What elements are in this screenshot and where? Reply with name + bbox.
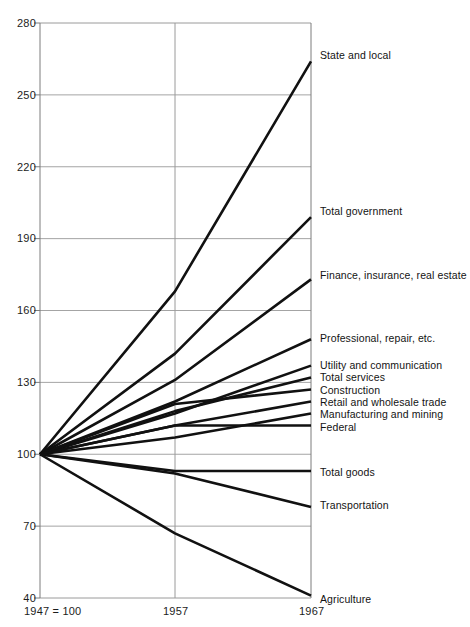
series-label-finance-insurance-real-estate: Finance, insurance, real estate [320,270,467,281]
series-label-manufacturing-and-mining: Manufacturing and mining [320,409,443,420]
series-label-construction: Construction [320,385,380,396]
x-tick-label-1967: 1967 [299,606,324,617]
y-tick-label-280: 280 [2,18,36,29]
plot-area [0,0,470,627]
series-label-total-goods: Total goods [320,467,375,478]
line-chart-figure: 280 250 220 190 160 130 100 70 40 1957 1… [0,0,470,627]
series-label-agriculture: Agriculture [320,594,371,605]
y-tick-label-130: 130 [2,377,36,388]
series-label-professional-repair: Professional, repair, etc. [320,333,435,344]
y-tick-label-40: 40 [2,593,36,604]
index-base-note: 1947 = 100 [24,606,81,617]
series-label-federal: Federal [320,422,356,433]
series-label-total-services: Total services [320,372,385,383]
series-label-state-and-local: State and local [320,50,391,61]
series-label-retail-and-wholesale-trade: Retail and wholesale trade [320,397,446,408]
series-label-total-government: Total government [320,206,402,217]
series-label-transportation: Transportation [320,500,389,511]
y-tick-label-70: 70 [2,521,36,532]
series-label-utility-and-communication: Utility and communication [320,360,442,371]
y-tick-label-220: 220 [2,162,36,173]
y-tick-label-160: 160 [2,305,36,316]
x-tick-label-1957: 1957 [163,606,188,617]
y-tick-label-100: 100 [2,449,36,460]
y-tick-label-250: 250 [2,90,36,101]
y-tick-label-190: 190 [2,233,36,244]
